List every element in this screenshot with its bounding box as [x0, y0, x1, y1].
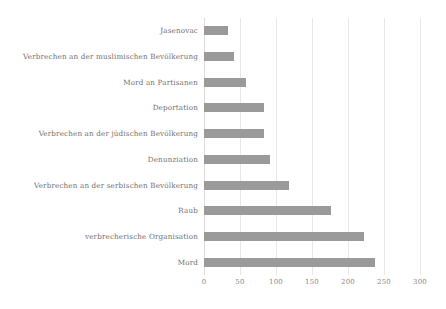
- bar: [204, 103, 264, 112]
- category-label: Deportation: [153, 103, 198, 112]
- x-tick-label: 150: [305, 278, 319, 286]
- bar-row: Verbrechen an der muslimischen Bevölkeru…: [204, 44, 420, 70]
- category-label: Denunziation: [148, 155, 198, 164]
- category-label: Mord an Partisanen: [123, 78, 198, 87]
- bar-row: Raub: [204, 198, 420, 224]
- x-axis: 050100150200250300: [204, 278, 420, 294]
- x-tick-label: 300: [413, 278, 427, 286]
- bar-row: Jasenovac: [204, 18, 420, 44]
- bar-chart: JasenovacVerbrechen an der muslimischen …: [0, 0, 446, 309]
- bar: [204, 129, 264, 138]
- plot-area: JasenovacVerbrechen an der muslimischen …: [204, 18, 420, 275]
- category-label: Verbrechen an der serbischen Bevölkerung: [34, 181, 198, 190]
- bar-rows: JasenovacVerbrechen an der muslimischen …: [204, 18, 420, 275]
- x-tick-label: 200: [341, 278, 355, 286]
- category-label: Verbrechen an der muslimischen Bevölkeru…: [23, 52, 198, 61]
- category-label: Verbrechen an der jüdischen Bevölkerung: [39, 129, 198, 138]
- bar: [204, 181, 289, 190]
- x-tick-label: 100: [269, 278, 283, 286]
- x-tick-label: 250: [377, 278, 391, 286]
- bar: [204, 206, 331, 215]
- x-tick-label: 0: [202, 278, 207, 286]
- category-label: verbrecherische Organisation: [85, 232, 198, 241]
- x-tick-label: 50: [235, 278, 244, 286]
- bar-row: Deportation: [204, 95, 420, 121]
- category-label: Jasenovac: [160, 26, 198, 35]
- category-label: Raub: [178, 206, 198, 215]
- bar: [204, 232, 364, 241]
- category-label: Mord: [178, 258, 198, 267]
- bar-row: Mord: [204, 249, 420, 275]
- bar: [204, 155, 270, 164]
- bar: [204, 78, 246, 87]
- bar-row: Denunziation: [204, 147, 420, 173]
- bar-row: Mord an Partisanen: [204, 69, 420, 95]
- bar-row: Verbrechen an der jüdischen Bevölkerung: [204, 121, 420, 147]
- bar: [204, 258, 375, 267]
- bar-row: Verbrechen an der serbischen Bevölkerung: [204, 172, 420, 198]
- bar: [204, 52, 234, 61]
- gridline-300: [420, 18, 421, 275]
- bar: [204, 26, 228, 35]
- bar-row: verbrecherische Organisation: [204, 224, 420, 250]
